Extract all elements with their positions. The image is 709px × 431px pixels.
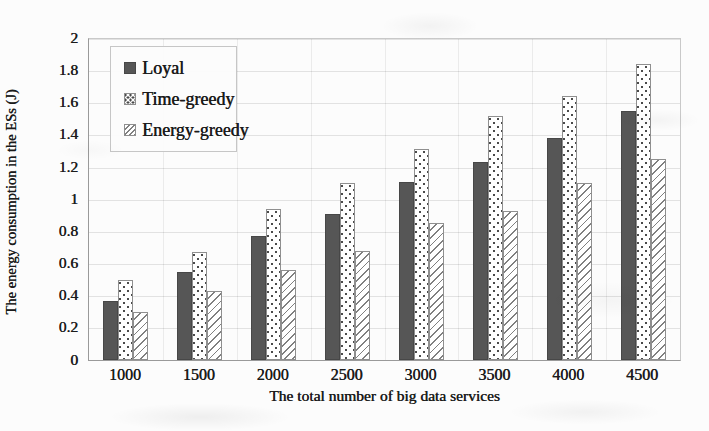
y-tick-label-0.6: 0.6 <box>8 254 78 272</box>
bar-loyal-3500 <box>473 162 488 360</box>
y-tick-label-1.6: 1.6 <box>8 93 78 111</box>
legend-label-loyal: Loyal <box>142 58 184 78</box>
bar-loyal-1500 <box>177 272 192 360</box>
bar-energy-greedy-1500 <box>207 291 222 360</box>
y-tick-label-2: 2 <box>8 29 78 47</box>
gridline-vertical <box>385 39 386 360</box>
legend-label-energy-greedy: Energy-greedy <box>142 120 249 140</box>
legend-item-loyal: Loyal <box>124 58 236 78</box>
x-tick-label-2500: 2500 <box>312 366 382 384</box>
x-tick-label-1500: 1500 <box>164 366 234 384</box>
bar-energy-greedy-2000 <box>281 270 296 360</box>
bar-energy-greedy-4000 <box>577 183 592 360</box>
gridline-vertical <box>458 39 459 360</box>
bar-loyal-1000 <box>103 301 118 360</box>
loyal-swatch-icon <box>124 62 136 74</box>
x-tick-label-3500: 3500 <box>459 366 529 384</box>
time-greedy-swatch-icon <box>124 93 136 105</box>
y-tick-label-0: 0 <box>8 351 78 369</box>
x-axis-title: The total number of big data services <box>88 387 681 405</box>
bar-time-greedy-4000 <box>562 96 577 360</box>
x-tick-label-3000: 3000 <box>385 366 455 384</box>
bar-loyal-2500 <box>325 214 340 360</box>
bar-loyal-3000 <box>399 182 414 360</box>
y-tick-label-0.8: 0.8 <box>8 222 78 240</box>
legend-item-time-greedy: Time-greedy <box>124 89 236 109</box>
gridline-vertical <box>532 39 533 360</box>
bar-time-greedy-1000 <box>118 280 133 360</box>
bar-energy-greedy-2500 <box>355 251 370 360</box>
bar-loyal-4500 <box>621 111 636 360</box>
bar-time-greedy-3000 <box>414 149 429 360</box>
x-tick-label-4000: 4000 <box>533 366 603 384</box>
gridline-vertical <box>606 39 607 360</box>
y-tick-label-1.8: 1.8 <box>8 61 78 79</box>
bar-time-greedy-1500 <box>192 252 207 360</box>
bar-energy-greedy-3500 <box>503 211 518 360</box>
y-tick-label-1: 1 <box>8 190 78 208</box>
bar-time-greedy-3500 <box>488 116 503 360</box>
x-tick-label-2000: 2000 <box>238 366 308 384</box>
x-tick-label-4500: 4500 <box>607 366 677 384</box>
bar-time-greedy-2000 <box>266 209 281 360</box>
legend: Loyal Time-greedy Energy-greedy <box>110 46 237 152</box>
bar-loyal-4000 <box>547 138 562 360</box>
bar-chart-figure: The energy consumption in the ESs (J) 00… <box>0 0 709 431</box>
y-tick-label-0.4: 0.4 <box>8 286 78 304</box>
legend-item-energy-greedy: Energy-greedy <box>124 120 236 140</box>
bar-time-greedy-2500 <box>340 183 355 360</box>
y-tick-label-0.2: 0.2 <box>8 318 78 336</box>
y-tick-label-1.4: 1.4 <box>8 125 78 143</box>
energy-greedy-swatch-icon <box>124 124 136 136</box>
bar-energy-greedy-3000 <box>429 223 444 360</box>
legend-label-time-greedy: Time-greedy <box>142 89 234 109</box>
y-tick-label-1.2: 1.2 <box>8 158 78 176</box>
bar-loyal-2000 <box>251 236 266 360</box>
gridline-vertical <box>311 39 312 360</box>
x-tick-label-1000: 1000 <box>90 366 160 384</box>
bar-time-greedy-4500 <box>636 64 651 360</box>
bar-energy-greedy-1000 <box>133 312 148 360</box>
bar-energy-greedy-4500 <box>651 159 666 360</box>
